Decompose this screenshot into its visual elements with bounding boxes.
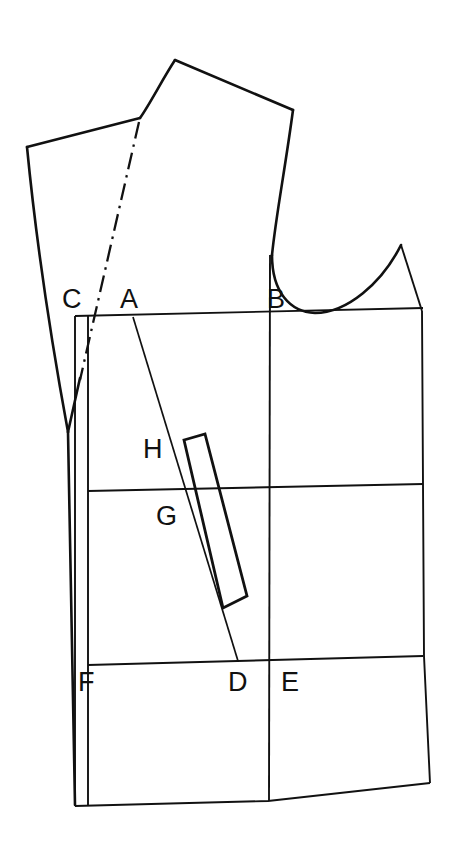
construction-grid-group <box>75 245 430 806</box>
hip-horizontal-line <box>88 656 423 665</box>
label-E: E <box>281 667 299 697</box>
center-front-edge-line <box>68 432 75 805</box>
shoulder-dart-center-dashdot-line <box>80 122 139 380</box>
label-F: F <box>78 667 95 697</box>
right-shoulder-seam-line <box>175 60 293 110</box>
label-D: D <box>228 667 248 697</box>
left-shoulder-seam-line <box>27 118 140 147</box>
bust-dart-rectangle <box>184 434 247 608</box>
label-C: C <box>62 284 82 314</box>
armhole-scye-curve <box>272 245 401 313</box>
waist-horizontal-line <box>88 484 423 491</box>
dart-construction-group <box>80 122 247 661</box>
block-right-vertical-lower <box>422 311 430 783</box>
hem-horizontal-line <box>75 783 430 806</box>
pattern-diagram-canvas: C A B H G F D E <box>0 0 458 843</box>
label-G: G <box>156 501 177 531</box>
pattern-drawing: C A B H G F D E <box>0 0 458 843</box>
center-vertical-grid-line <box>269 255 270 801</box>
neckline-curve <box>140 60 175 118</box>
side-seam-notch-line <box>68 378 80 432</box>
label-H: H <box>143 434 163 464</box>
label-B: B <box>267 284 285 314</box>
label-A: A <box>120 284 138 314</box>
block-right-vertical-upper <box>401 245 422 311</box>
armhole-upper-curve <box>272 110 293 255</box>
